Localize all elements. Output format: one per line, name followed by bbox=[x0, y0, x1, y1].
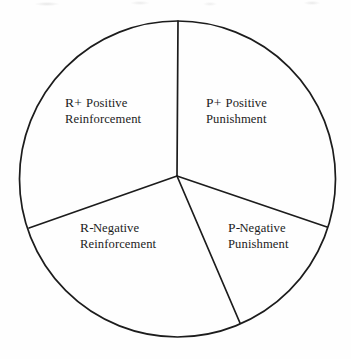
divider-line-top bbox=[177, 21, 178, 176]
sector-label-positive-punishment: P+ Positive Punishment bbox=[206, 93, 267, 127]
sector-name-line1-p-plus: Positive bbox=[226, 96, 267, 110]
diagram-canvas: R+ Positive Reinforcement P+ Positive Pu… bbox=[0, 0, 351, 359]
sector-name-line1-r-minus: Negative bbox=[93, 221, 139, 235]
sector-label-negative-punishment: P- Negative Punishment bbox=[228, 218, 288, 252]
sector-name-line2-r-plus: Reinforcement bbox=[65, 112, 141, 127]
sector-name-line2-p-minus: Punishment bbox=[228, 237, 288, 252]
sector-name-line2-p-plus: Punishment bbox=[206, 112, 267, 127]
sector-code-r-minus: R- bbox=[80, 220, 94, 235]
sector-code-r-plus: R+ bbox=[65, 95, 82, 110]
sector-label-negative-reinforcement: R- Negative Reinforcement bbox=[80, 218, 156, 252]
sector-code-p-plus: P+ bbox=[206, 95, 222, 110]
sector-label-positive-reinforcement: R+ Positive Reinforcement bbox=[65, 93, 141, 127]
sector-name-line1-p-minus: Negative bbox=[239, 221, 285, 235]
pie-chart-graphic bbox=[0, 0, 351, 359]
sector-name-line2-r-minus: Reinforcement bbox=[80, 237, 156, 252]
sector-name-line1-r-plus: Positive bbox=[86, 96, 127, 110]
